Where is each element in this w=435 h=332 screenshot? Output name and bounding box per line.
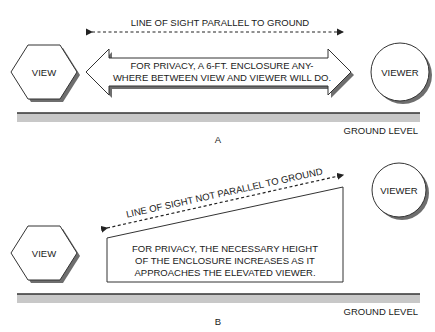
enclosure-note-b-line2: OF THE ENCLOSURE INCREASES AS IT [135, 255, 315, 266]
viewer-label-b: VIEWER [380, 185, 418, 196]
panel-caption-a: A [215, 134, 222, 145]
panel-a: LINE OF SIGHT PARALLEL TO GROUND VIEW FO… [11, 17, 432, 145]
viewer-circle-a: VIEWER [371, 43, 432, 104]
enclosure-trapezoid-b: FOR PRIVACY, THE NECESSARY HEIGHT OF THE… [107, 187, 343, 282]
panel-caption-b: B [215, 316, 221, 327]
ground-level-label-b: GROUND LEVEL [344, 306, 418, 317]
view-hexagon-b: VIEW [11, 226, 80, 283]
ground-level-label-a: GROUND LEVEL [344, 125, 418, 136]
enclosure-note-b-line1: FOR PRIVACY, THE NECESSARY HEIGHT [132, 243, 318, 254]
view-label-a: VIEW [32, 67, 56, 78]
panel-b: LINE OF SIGHT NOT PARALLEL TO GROUND VIE… [11, 163, 429, 327]
privacy-enclosure-diagram: LINE OF SIGHT PARALLEL TO GROUND VIEW FO… [0, 0, 435, 332]
viewer-label-a: VIEWER [381, 67, 419, 78]
enclosure-note-b-line3: APPROACHES THE ELEVATED VIEWER. [134, 267, 315, 278]
ground-a [17, 113, 420, 122]
enclosure-note-a-line1: FOR PRIVACY, A 6-FT. ENCLOSURE ANY- [130, 60, 313, 71]
enclosure-note-a-line2: WHERE BETWEEN VIEW AND VIEWER WILL DO. [113, 72, 331, 83]
viewer-circle-b: VIEWER [372, 163, 429, 220]
view-label-b: VIEW [32, 248, 56, 259]
view-hexagon-a: VIEW [11, 45, 80, 102]
line-of-sight-label-a: LINE OF SIGHT PARALLEL TO GROUND [131, 17, 310, 28]
ground-b [17, 294, 420, 303]
enclosure-double-arrow-a: FOR PRIVACY, A 6-FT. ENCLOSURE ANY- WHER… [86, 49, 354, 98]
